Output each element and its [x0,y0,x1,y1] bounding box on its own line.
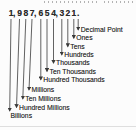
arrow-billions [10,19,11,111]
arrow-ten-millions [23,19,26,99]
label-ten-millions: Ten Millions [25,95,61,102]
label-tens: Tens [70,43,84,50]
bottom-divider [0,126,136,127]
label-hundred-thousands: Hundred Thousands [43,76,104,83]
label-hundred-millions: Hundred Millions [19,104,70,111]
label-thousands: Thousands [56,59,90,66]
label-ones: Ones [76,34,92,41]
label-billions: Billions [11,112,33,119]
label-millions: Millions [32,86,55,93]
label-ten-thousands: Ten Thousands [50,68,96,75]
arrow-hundred-millions [17,19,20,107]
place-value-diagram: 1 , 9 8 7 , 6 5 4 , 3 2 1 . [0,0,136,130]
label-decimal-point: Decimal Point [81,26,123,33]
label-hundreds: Hundreds [64,51,93,58]
arrow-millions [29,19,32,90]
